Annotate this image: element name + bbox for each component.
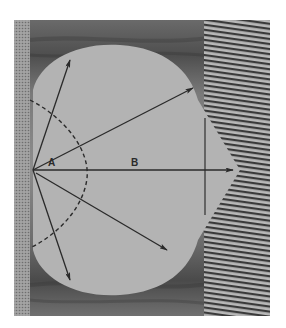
diagram-figure: A B xyxy=(0,0,286,328)
label-b: B xyxy=(131,157,138,168)
label-a: A xyxy=(48,157,55,168)
left-dotted-strip xyxy=(14,20,30,316)
